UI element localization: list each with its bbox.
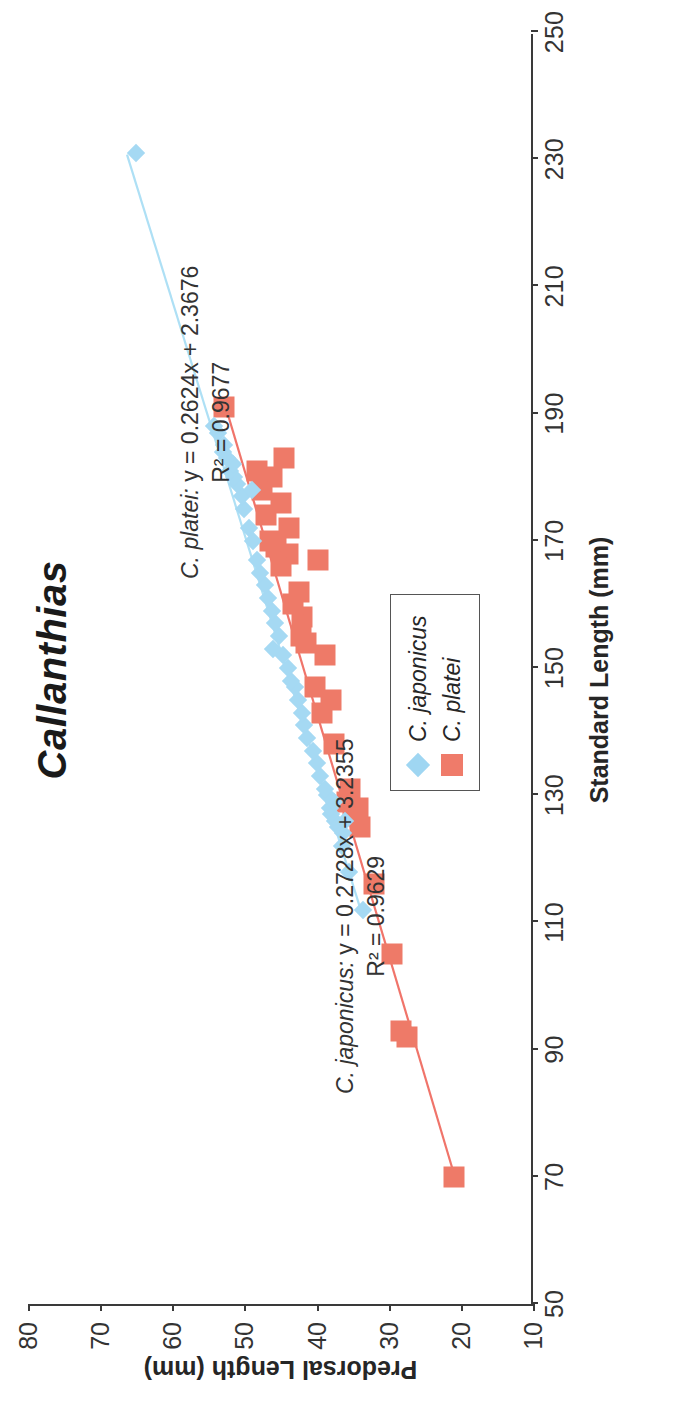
legend-item: C. platei — [435, 615, 469, 776]
y-tick-mark — [317, 1304, 319, 1311]
y-tick-label: 30 — [374, 1322, 403, 1350]
y-axis-title: Predorsal Length (mm) — [28, 1350, 533, 1390]
annotation-japonicus: C. japonicus: y = 0.2728x + 3.2355 R² = … — [330, 739, 392, 1094]
x-tick-mark — [531, 284, 538, 286]
x-axis-title: Standard Length (mm) — [585, 34, 614, 1306]
y-tick-label: 60 — [158, 1322, 187, 1350]
x-tick-mark — [531, 1175, 538, 1177]
x-tick-mark — [531, 666, 538, 668]
annotation-platei-r2: R² = 0.9677 — [206, 266, 237, 579]
x-tick-label: 50 — [540, 1290, 569, 1318]
diamond-marker-icon — [406, 753, 430, 777]
trendline — [127, 155, 361, 911]
legend-item: C. japonicus — [401, 615, 435, 776]
x-tick-label: 90 — [540, 1036, 569, 1064]
square-marker-icon — [441, 754, 463, 776]
annotation-platei-equation: y = 0.2624x + 2.3676 — [177, 266, 203, 482]
legend-item-label: C. japonicus — [405, 615, 432, 742]
y-tick-label: 80 — [14, 1322, 43, 1350]
x-tick-mark — [531, 539, 538, 541]
x-tick-label: 250 — [540, 11, 569, 53]
y-tick-mark — [28, 1304, 30, 1311]
y-tick-label: 40 — [302, 1322, 331, 1350]
rotated-page: Callanthias 5070901101301501701902102302… — [0, 0, 676, 1424]
x-tick-mark — [531, 920, 538, 922]
x-tick-mark — [531, 793, 538, 795]
y-tick-label: 50 — [230, 1322, 259, 1350]
annotation-japonicus-equation: y = 0.2728x + 3.2355 — [332, 739, 358, 955]
legend: C. japonicus C. platei — [390, 594, 480, 791]
annotation-japonicus-species: C. japonicus: — [332, 961, 358, 1094]
y-tick-mark — [244, 1304, 246, 1311]
x-tick-mark — [531, 412, 538, 414]
x-tick-label: 230 — [540, 138, 569, 180]
x-tick-label: 110 — [540, 902, 569, 942]
y-tick-mark — [461, 1304, 463, 1311]
x-tick-mark — [531, 30, 538, 32]
x-tick-label: 170 — [540, 520, 569, 562]
x-tick-label: 130 — [540, 774, 569, 816]
y-tick-label: 20 — [446, 1322, 475, 1350]
y-tick-mark — [389, 1304, 391, 1311]
y-tick-label: 70 — [86, 1322, 115, 1350]
y-tick-mark — [100, 1304, 102, 1311]
x-tick-label: 210 — [540, 265, 569, 307]
annotation-japonicus-r2: R² = 0.9629 — [361, 739, 392, 1094]
annotation-platei: C. platei: y = 0.2624x + 2.3676 R² = 0.9… — [175, 266, 237, 579]
legend-item-label: C. platei — [439, 658, 466, 742]
x-tick-label: 190 — [540, 392, 569, 434]
x-tick-mark — [531, 157, 538, 159]
x-tick-label: 150 — [540, 647, 569, 689]
annotation-platei-species: C. platei: — [177, 488, 203, 579]
x-tick-label: 70 — [540, 1163, 569, 1191]
scatter-chart: Callanthias 5070901101301501701902102302… — [0, 0, 676, 1424]
y-tick-label: 10 — [519, 1322, 548, 1350]
x-tick-mark — [531, 1048, 538, 1050]
y-tick-mark — [533, 1304, 535, 1311]
y-tick-mark — [172, 1304, 174, 1311]
